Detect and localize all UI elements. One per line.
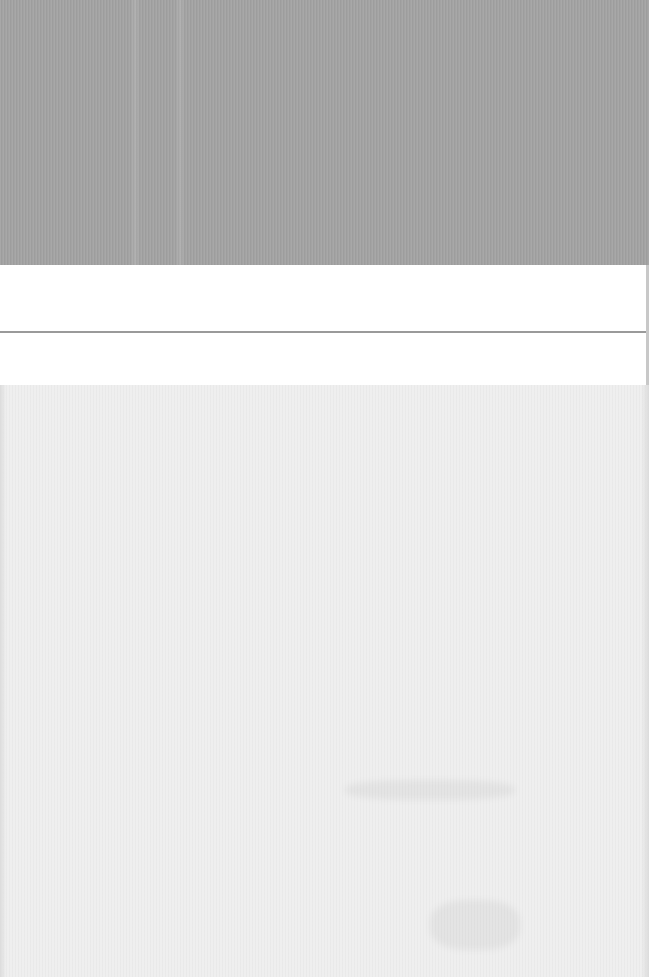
faint-smudge [430,900,520,950]
bottom-light-area [0,385,649,977]
right-shadow-edge [641,385,649,977]
left-shadow-edge [0,385,6,977]
blank-row-1 [0,265,646,331]
faint-smudge [345,780,515,800]
texture-streak [175,0,185,265]
texture-streak [130,0,140,265]
blank-row-2 [0,333,646,385]
top-gray-band [0,0,649,265]
